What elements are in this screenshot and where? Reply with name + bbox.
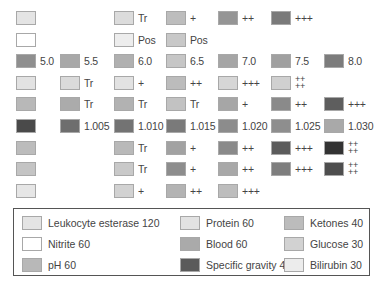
swatch-label: 1.020 xyxy=(242,119,267,133)
swatch-label: + xyxy=(190,162,196,176)
swatch-label: ++ xyxy=(242,11,254,25)
color-swatch xyxy=(218,76,238,90)
legend-swatch xyxy=(284,258,304,272)
color-swatch xyxy=(166,162,186,176)
color-swatch xyxy=(218,11,238,25)
color-swatch xyxy=(324,97,344,111)
swatch-label: 6.0 xyxy=(138,54,152,68)
swatch-label: 1.010 xyxy=(138,119,163,133)
swatch-label: 7.5 xyxy=(295,54,309,68)
color-swatch xyxy=(271,119,291,133)
swatch-label: ++ xyxy=(190,76,202,90)
color-swatch xyxy=(16,76,36,90)
swatch-label: +++ xyxy=(295,162,313,176)
legend-label: pH 60 xyxy=(48,259,76,271)
swatch-label: Pos xyxy=(138,33,156,47)
color-swatch xyxy=(324,54,344,68)
legend-label: Nitrite 60 xyxy=(48,238,90,250)
color-swatch xyxy=(60,97,80,111)
color-swatch xyxy=(324,119,344,133)
color-swatch xyxy=(218,184,238,198)
swatch-label: 8.0 xyxy=(348,54,362,68)
swatch-label: + xyxy=(242,97,248,111)
swatch-label: 5.5 xyxy=(84,54,98,68)
swatch-label: ++++ xyxy=(348,141,358,155)
color-swatch xyxy=(166,33,186,47)
color-swatch xyxy=(16,97,36,111)
legend-swatch xyxy=(180,237,200,251)
swatch-label: Tr xyxy=(138,97,147,111)
swatch-label: Tr xyxy=(84,76,93,90)
color-swatch xyxy=(271,54,291,68)
color-swatch xyxy=(114,33,134,47)
swatch-label: Pos xyxy=(190,33,208,47)
swatch-label: Tr xyxy=(138,141,147,155)
swatch-label: ++ xyxy=(190,184,202,198)
swatch-label: Tr xyxy=(190,97,199,111)
color-swatch xyxy=(324,162,344,176)
color-swatch xyxy=(114,141,134,155)
legend-swatch xyxy=(22,258,42,272)
color-swatch xyxy=(16,162,36,176)
color-swatch xyxy=(271,11,291,25)
color-swatch xyxy=(60,54,80,68)
color-swatch xyxy=(16,11,36,25)
legend-label: Blood 60 xyxy=(206,238,247,250)
color-swatch xyxy=(324,141,344,155)
legend-label: Specific gravity 45 xyxy=(206,259,291,271)
legend-swatch xyxy=(180,258,200,272)
legend-swatch xyxy=(180,216,200,230)
color-swatch xyxy=(166,184,186,198)
swatch-label: 7.0 xyxy=(242,54,256,68)
color-swatch xyxy=(218,97,238,111)
legend-item-glucose: Glucose 30 xyxy=(284,237,363,251)
legend-swatch xyxy=(284,216,304,230)
color-swatch xyxy=(114,97,134,111)
color-swatch xyxy=(60,119,80,133)
legend-item-ph: pH 60 xyxy=(22,258,76,272)
swatch-label: 1.025 xyxy=(295,119,320,133)
color-swatch xyxy=(114,184,134,198)
color-swatch xyxy=(271,76,291,90)
legend-label: Protein 60 xyxy=(206,217,254,229)
color-swatch xyxy=(271,141,291,155)
swatch-label: ++ xyxy=(242,162,254,176)
swatch-label: Tr xyxy=(138,162,147,176)
legend-swatch xyxy=(284,237,304,251)
color-swatch xyxy=(114,162,134,176)
swatch-label: 1.015 xyxy=(190,119,215,133)
legend-item-nitrite: Nitrite 60 xyxy=(22,237,90,251)
color-swatch xyxy=(114,76,134,90)
swatch-label: 1.030 xyxy=(348,119,373,133)
swatch-label: +++ xyxy=(242,76,260,90)
color-swatch xyxy=(166,11,186,25)
color-swatch xyxy=(166,76,186,90)
swatch-label: + xyxy=(138,184,144,198)
legend-swatch xyxy=(22,237,42,251)
color-swatch xyxy=(218,54,238,68)
swatch-label: ++ xyxy=(242,141,254,155)
legend-item-bilirubin: Bilirubin 30 xyxy=(284,258,362,272)
color-swatch xyxy=(60,76,80,90)
color-swatch xyxy=(16,141,36,155)
swatch-label: ++++ xyxy=(348,162,358,176)
legend-label: Leukocyte esterase 120 xyxy=(48,217,160,229)
color-swatch xyxy=(114,119,134,133)
swatch-label: ++++ xyxy=(295,76,305,90)
legend-item-specific-gravity: Specific gravity 45 xyxy=(180,258,291,272)
color-swatch xyxy=(114,11,134,25)
legend-item-ketones: Ketones 40 xyxy=(284,216,363,230)
swatch-label: + xyxy=(190,141,196,155)
swatch-label: +++ xyxy=(348,97,366,111)
color-swatch xyxy=(16,184,36,198)
color-swatch xyxy=(166,97,186,111)
swatch-label: 1.005 xyxy=(84,119,109,133)
swatch-label: + xyxy=(190,11,196,25)
swatch-label: +++ xyxy=(242,184,260,198)
color-swatch xyxy=(271,97,291,111)
swatch-label: Tr xyxy=(84,97,93,111)
swatch-label: +++ xyxy=(295,141,313,155)
legend-item-leukocyte: Leukocyte esterase 120 xyxy=(22,216,160,230)
color-swatch xyxy=(114,54,134,68)
swatch-label: Tr xyxy=(138,11,147,25)
